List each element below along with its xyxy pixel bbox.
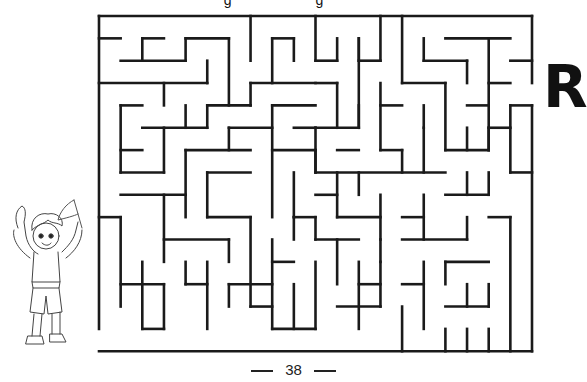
maze-letter: R [543, 58, 587, 116]
left-dash [251, 370, 273, 372]
page-number-text: 38 [285, 361, 302, 378]
right-dash [314, 370, 336, 372]
maze-grid[interactable] [0, 0, 587, 382]
page-number: 38 [0, 361, 587, 378]
child-illustration [8, 196, 88, 356]
